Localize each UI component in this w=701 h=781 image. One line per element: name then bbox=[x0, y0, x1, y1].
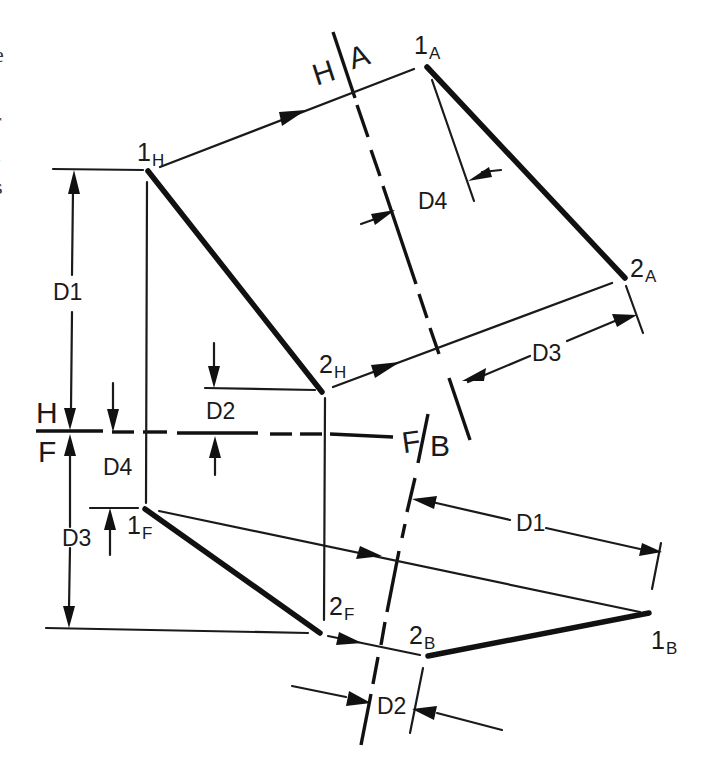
drawing-canvas bbox=[0, 0, 701, 781]
view-subscript: F bbox=[344, 605, 354, 624]
fold-line-hf bbox=[36, 431, 393, 437]
line-top-view bbox=[148, 171, 322, 392]
arrow-icon bbox=[104, 508, 116, 530]
auxiliary-view-diagram: e l r t s bbox=[0, 0, 701, 781]
point-number: 2 bbox=[329, 592, 343, 620]
dimension-label-d4: D4 bbox=[103, 456, 132, 479]
view-subscript: B bbox=[424, 634, 435, 653]
dim-line-d1-aux-left bbox=[432, 502, 510, 520]
point-label-1h: 1H bbox=[137, 140, 164, 169]
dim-line-d1-upper bbox=[72, 190, 73, 275]
arrow-icon bbox=[68, 170, 80, 194]
dimension-label-d3-aux: D3 bbox=[532, 342, 561, 365]
view-subscript: A bbox=[645, 267, 656, 286]
arrow-icon bbox=[612, 314, 637, 327]
dim-line-d2-aux-left bbox=[292, 686, 346, 697]
arrow-icon bbox=[64, 408, 76, 430]
point-label-1a: 1A bbox=[414, 33, 440, 62]
dimension-label-d4-aux: D4 bbox=[418, 190, 447, 213]
arrow-icon bbox=[371, 362, 400, 378]
arrow-icon bbox=[63, 606, 75, 628]
arrow-icon bbox=[107, 409, 119, 432]
view-subscript: H bbox=[152, 151, 164, 170]
projector-1h-1f bbox=[146, 182, 147, 503]
arrow-icon bbox=[209, 436, 221, 458]
point-number: 1 bbox=[414, 31, 428, 59]
point-number: 1 bbox=[127, 511, 141, 539]
point-label-2b: 2B bbox=[409, 623, 435, 652]
extension-2h bbox=[205, 388, 315, 390]
extension-1h bbox=[53, 169, 143, 170]
dimension-label-d1-aux: D1 bbox=[516, 512, 545, 535]
dim-line-d2-aux-right bbox=[437, 713, 502, 730]
fold-label-f: F bbox=[38, 437, 56, 467]
point-number: 2 bbox=[319, 350, 333, 378]
view-subscript: A bbox=[429, 44, 440, 63]
line-aux-view-b bbox=[428, 613, 649, 656]
point-number: 2 bbox=[630, 254, 644, 282]
fold-label-b: B bbox=[430, 431, 450, 461]
point-number: 1 bbox=[651, 626, 665, 654]
dimension-label-d2-aux: D2 bbox=[377, 695, 406, 718]
arrow-icon bbox=[279, 110, 306, 126]
dim-line-d3-lower bbox=[69, 548, 70, 608]
point-label-1b: 1B bbox=[651, 628, 677, 657]
arrow-icon bbox=[208, 366, 220, 388]
dim-line-d1-aux-right bbox=[546, 528, 640, 549]
dimension-label-d3: D3 bbox=[62, 527, 91, 550]
dim-line-d1-lower bbox=[71, 312, 72, 408]
arrow-icon bbox=[371, 210, 395, 225]
line-aux-view-a bbox=[427, 67, 625, 278]
line-front-view bbox=[145, 509, 320, 633]
point-label-2h: 2H bbox=[319, 352, 346, 381]
arrow-icon bbox=[64, 434, 76, 456]
extension-2a bbox=[626, 286, 643, 333]
point-number: 2 bbox=[409, 621, 423, 649]
dimension-label-d1: D1 bbox=[53, 281, 82, 304]
fold-label-f-aux: F bbox=[400, 426, 422, 458]
arrow-icon bbox=[336, 632, 362, 645]
view-subscript: F bbox=[142, 524, 152, 543]
arrow-icon bbox=[346, 691, 371, 706]
extension-2b bbox=[410, 668, 423, 733]
projector-2h-2f bbox=[324, 398, 325, 620]
point-label-2a: 2A bbox=[630, 256, 656, 285]
arrow-icon bbox=[468, 167, 492, 181]
dim-line-d3-aux-right bbox=[567, 318, 622, 341]
view-subscript: H bbox=[334, 363, 346, 382]
projector-1f-1b bbox=[159, 511, 640, 612]
point-number: 1 bbox=[137, 138, 151, 166]
arrow-icon bbox=[412, 496, 437, 509]
extension-2f bbox=[46, 628, 308, 633]
dimension-label-d2: D2 bbox=[206, 400, 235, 423]
point-label-2f: 2F bbox=[329, 594, 354, 623]
fold-label-h: H bbox=[36, 398, 58, 428]
view-subscript: B bbox=[666, 639, 677, 658]
point-label-1f: 1F bbox=[127, 513, 152, 542]
arrow-icon bbox=[462, 368, 486, 381]
